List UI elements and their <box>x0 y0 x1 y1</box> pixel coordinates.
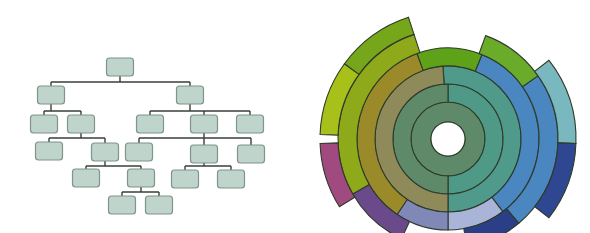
sunburst-diagram <box>0 0 590 233</box>
sunburst-center-hole <box>431 122 465 156</box>
